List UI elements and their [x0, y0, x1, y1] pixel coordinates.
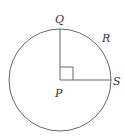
right-angle-marker [60, 67, 73, 80]
label-r: R [101, 32, 110, 45]
label-p: P [54, 87, 63, 100]
circle-diagram: Q R S P [0, 0, 124, 138]
label-q: Q [55, 13, 64, 26]
label-s: S [113, 75, 121, 88]
